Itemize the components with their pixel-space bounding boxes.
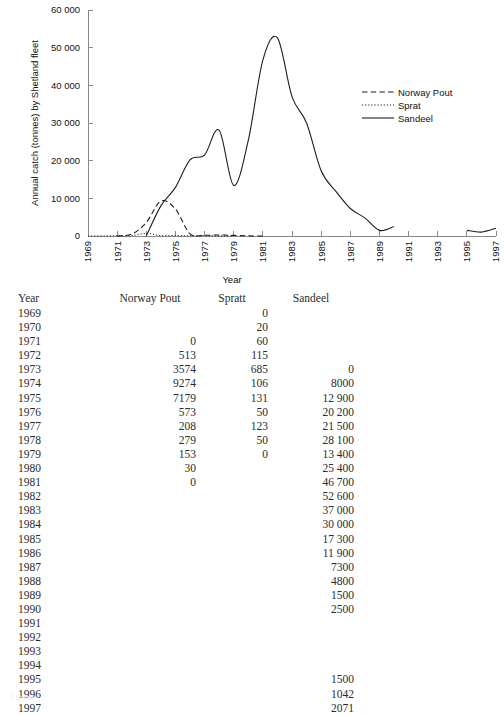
x-axis-tick-label: 1969 <box>82 241 93 262</box>
series-line-sandeel <box>146 36 394 236</box>
cell-year: 1974 <box>8 376 104 390</box>
cell-spratt: 685 <box>196 362 268 376</box>
table-row: 197492741068000 <box>8 376 358 390</box>
cell-sandeel <box>268 658 358 672</box>
cell-norway-pout: 208 <box>104 419 196 433</box>
cell-year: 1981 <box>8 475 104 489</box>
cell-norway-pout <box>104 588 196 602</box>
cell-sandeel <box>268 320 358 334</box>
cell-norway-pout <box>104 560 196 574</box>
cell-year: 1993 <box>8 644 104 658</box>
cell-year: 1971 <box>8 334 104 348</box>
table-row: 1984 30 000 <box>8 517 358 531</box>
cell-sandeel <box>268 306 358 320</box>
table-body: 1969 0 1970 20 1971060 1972513115 197335… <box>8 306 358 715</box>
table-row: 1992 <box>8 630 358 644</box>
table-row: 19810 46 700 <box>8 475 358 489</box>
cell-sandeel: 0 <box>268 362 358 376</box>
cell-year: 1997 <box>8 701 104 715</box>
table-row: 1986 11 900 <box>8 546 358 560</box>
x-axis-tick-label: 1991 <box>403 241 414 262</box>
table-row: 198030 25 400 <box>8 461 358 475</box>
y-axis-tick-label: 0 <box>75 230 80 241</box>
table-row: 19782795028 100 <box>8 433 358 447</box>
cell-norway-pout <box>104 532 196 546</box>
cell-sandeel: 20 200 <box>268 405 358 419</box>
table-row: 1993 <box>8 644 358 658</box>
cell-year: 1984 <box>8 517 104 531</box>
catch-line-chart: 010 00020 00030 00040 00050 00060 000196… <box>0 0 504 290</box>
cell-spratt <box>196 616 268 630</box>
y-axis-tick-label: 10 000 <box>51 193 80 204</box>
cell-year: 1988 <box>8 574 104 588</box>
cell-norway-pout: 30 <box>104 461 196 475</box>
cell-norway-pout <box>104 306 196 320</box>
cell-norway-pout: 573 <box>104 405 196 419</box>
catch-data-table: Year Norway Pout Spratt Sandeel 1969 0 1… <box>8 292 358 715</box>
cell-sandeel: 25 400 <box>268 461 358 475</box>
cell-sandeel: 2500 <box>268 602 358 616</box>
legend-label: Sandeel <box>398 113 433 124</box>
cell-norway-pout: 7179 <box>104 391 196 405</box>
cell-spratt <box>196 672 268 686</box>
cell-sandeel <box>268 644 358 658</box>
cell-sandeel: 2071 <box>268 701 358 715</box>
cell-sandeel: 28 100 <box>268 433 358 447</box>
cell-sandeel: 52 600 <box>268 489 358 503</box>
table-row: 1969 0 <box>8 306 358 320</box>
x-axis-tick-label: 1971 <box>112 241 123 262</box>
table-header-spratt: Spratt <box>196 292 268 306</box>
cell-spratt: 0 <box>196 447 268 461</box>
table-header-row: Year Norway Pout Spratt Sandeel <box>8 292 358 306</box>
cell-sandeel <box>268 348 358 362</box>
cell-year: 1989 <box>8 588 104 602</box>
cell-norway-pout <box>104 517 196 531</box>
cell-year: 1992 <box>8 630 104 644</box>
cell-norway-pout: 9274 <box>104 376 196 390</box>
legend-label: Sprat <box>398 100 421 111</box>
cell-sandeel <box>268 616 358 630</box>
cell-year: 1986 <box>8 546 104 560</box>
cell-spratt <box>196 701 268 715</box>
table-row: 1995 1500 <box>8 672 358 686</box>
cell-sandeel: 4800 <box>268 574 358 588</box>
cell-year: 1973 <box>8 362 104 376</box>
cell-spratt: 123 <box>196 419 268 433</box>
cell-sandeel: 46 700 <box>268 475 358 489</box>
table-row: 1996 1042 <box>8 687 358 701</box>
cell-spratt: 60 <box>196 334 268 348</box>
cell-norway-pout <box>104 630 196 644</box>
table-row: 1983 37 000 <box>8 503 358 517</box>
cell-norway-pout <box>104 687 196 701</box>
y-axis-tick-label: 40 000 <box>51 80 80 91</box>
cell-spratt <box>196 489 268 503</box>
table-row: 1979153013 400 <box>8 447 358 461</box>
cell-spratt <box>196 560 268 574</box>
table-row: 1994 <box>8 658 358 672</box>
table-row: 1991 <box>8 616 358 630</box>
cell-year: 1982 <box>8 489 104 503</box>
x-axis-tick-label: 1979 <box>228 241 239 262</box>
x-axis-title: Year <box>222 274 241 285</box>
cell-sandeel: 37 000 <box>268 503 358 517</box>
cell-year: 1978 <box>8 433 104 447</box>
x-axis-tick-label: 1983 <box>286 241 297 262</box>
table-row: 1975717913112 900 <box>8 391 358 405</box>
table-row: 1971060 <box>8 334 358 348</box>
x-axis-tick-label: 1993 <box>432 241 443 262</box>
cell-norway-pout <box>104 658 196 672</box>
cell-spratt: 106 <box>196 376 268 390</box>
bottom-caption: Figure <box>10 692 34 702</box>
cell-year: 1970 <box>8 320 104 334</box>
cell-spratt <box>196 687 268 701</box>
cell-sandeel: 7300 <box>268 560 358 574</box>
cell-norway-pout <box>104 546 196 560</box>
cell-year: 1987 <box>8 560 104 574</box>
y-axis-tick-label: 60 000 <box>51 4 80 15</box>
cell-sandeel: 13 400 <box>268 447 358 461</box>
cell-spratt <box>196 630 268 644</box>
cell-spratt: 0 <box>196 306 268 320</box>
cell-norway-pout: 513 <box>104 348 196 362</box>
cell-year: 1994 <box>8 658 104 672</box>
cell-year: 1985 <box>8 532 104 546</box>
